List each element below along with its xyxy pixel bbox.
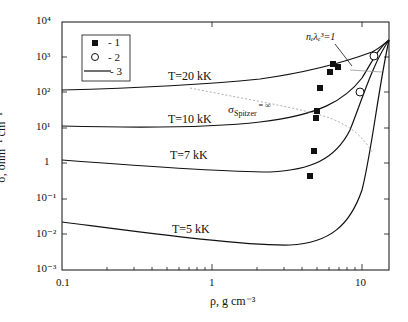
ytick-1em1: 10⁻¹ xyxy=(36,191,56,204)
ytick-1e4: 10⁴ xyxy=(36,14,51,26)
series-1-points xyxy=(307,61,341,179)
spitzer-line xyxy=(190,88,372,152)
legend-marker-square xyxy=(92,40,98,46)
xtick-0.1: 0.1 xyxy=(56,276,70,288)
xtick-10: 10 xyxy=(355,276,366,288)
ytick-1: 1 xyxy=(44,155,50,167)
label-ne: nₑλₑ³=1 xyxy=(306,31,335,42)
series-2-points xyxy=(356,52,378,96)
ytick-1em2: 10⁻² xyxy=(36,227,56,240)
ytick-1e1: 10¹ xyxy=(36,120,50,132)
label-t20: T=20 kK xyxy=(168,69,212,84)
xtick-1: 1 xyxy=(209,276,215,288)
legend-label-3: - 3 xyxy=(110,65,122,77)
x-axis-label: ρ, g cm⁻³ xyxy=(210,294,255,309)
label-spitzer: σSpitzer = ∞ xyxy=(228,101,271,118)
label-t5: T=5 kK xyxy=(172,222,210,237)
ytick-1e3: 10³ xyxy=(36,50,50,62)
ytick-1e2: 10² xyxy=(36,85,50,97)
legend-label-2: - 2 xyxy=(108,51,120,63)
legend-label-1: - 1 xyxy=(108,36,120,48)
legend-box xyxy=(82,35,130,81)
legend-marker-circle xyxy=(92,54,99,61)
label-t7: T=7 kK xyxy=(170,148,208,163)
y-axis-label: σ, ohm⁻¹ cm⁻¹ xyxy=(0,112,9,183)
ytick-1em3: 10⁻³ xyxy=(36,262,56,275)
label-t10: T=10 kK xyxy=(168,112,212,127)
